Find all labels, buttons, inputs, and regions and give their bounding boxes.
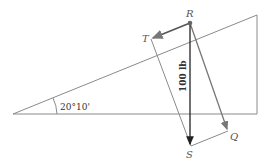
force-label: 100 lb [178, 60, 188, 92]
label-r: R [185, 8, 194, 19]
normal-component-arrow [190, 23, 227, 129]
point-r-dot [188, 21, 193, 26]
angle-label: 20°10' [60, 102, 90, 112]
angle-arc [53, 98, 57, 114]
tension-arrow [153, 23, 190, 38]
label-t: T [142, 33, 150, 44]
label-s: S [186, 149, 193, 160]
force-diagram: 20°10' R T S Q 100 lb [0, 0, 270, 167]
inclined-plane [13, 15, 257, 114]
label-q: Q [230, 131, 238, 142]
